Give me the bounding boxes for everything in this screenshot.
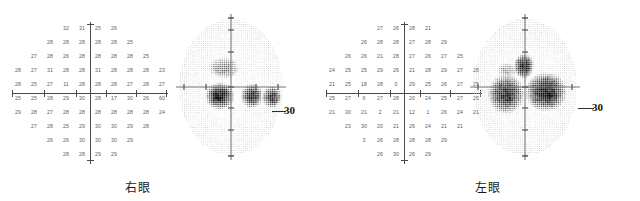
threshold-cell: 27 [26,120,42,132]
threshold-cell: 28 [74,106,90,118]
threshold-cell-empty [436,22,452,34]
threshold-cell-empty [10,36,26,48]
threshold-cell: 28 [58,36,74,48]
threshold-cell: 28 [10,78,26,90]
threshold-cell: 20 [404,92,420,104]
threshold-cell: 31 [74,22,90,34]
threshold-cell: 28 [122,106,138,118]
eye-caption-left: 左眼 [328,178,640,195]
threshold-cell: 29 [122,134,138,146]
threshold-numeric-grid-right: 3231252628282828282527282628282828252827… [10,18,170,168]
threshold-cell-empty [10,22,26,34]
threshold-row: 2728262828282825 [10,50,170,62]
threshold-cell: 27 [26,64,42,76]
threshold-cell-empty [154,50,170,62]
threshold-cell: 28 [138,64,154,76]
threshold-cell: 29 [58,92,74,104]
threshold-cell: 1 [420,106,436,118]
threshold-cell: 28 [58,148,74,160]
threshold-cell-empty [138,134,154,146]
threshold-cell: 28 [90,78,106,90]
grayscale-canvas [172,12,290,162]
threshold-row: 2728252930302928 [10,120,170,132]
threshold-cell: 24 [154,106,170,118]
threshold-row: 282828282825 [10,36,170,48]
threshold-cell: 30 [74,92,90,104]
threshold-cell: 25 [356,64,372,76]
threshold-cell: 30 [340,106,356,118]
threshold-cell: 29 [122,120,138,132]
threshold-cell: 29 [90,148,106,160]
threshold-cell-empty [324,36,340,48]
threshold-cell: 29 [436,64,452,76]
threshold-cell: 25 [420,78,436,90]
threshold-cell: 21 [356,106,372,118]
threshold-cell: 11 [58,78,74,90]
threshold-cell-empty [10,50,26,62]
threshold-cell: 27 [42,78,58,90]
degree-label-30: 30 [284,104,295,116]
threshold-cell: 27 [42,106,58,118]
threshold-cell: 27 [154,78,170,90]
threshold-cell: 27 [340,92,356,104]
threshold-cell: 26 [372,148,388,160]
threshold-row: 25252829302817302660 [10,92,170,104]
threshold-cell: 21 [324,78,340,90]
threshold-cell: 28 [122,64,138,76]
threshold-cell: 28 [90,36,106,48]
threshold-cell: 29 [106,148,122,160]
threshold-cell-empty [26,22,42,34]
threshold-cell-empty [154,36,170,48]
threshold-cell: 60 [154,92,170,104]
threshold-cell: 28 [388,92,404,104]
threshold-numeric-grid-left: 2726282126282827282926262128272627252425… [324,18,484,168]
threshold-row: 32312526 [10,22,170,34]
grayscale-plot-right: 30 [172,12,294,164]
threshold-cell: 26 [58,134,74,146]
threshold-row: 28252711282828272827 [10,78,170,90]
threshold-cell: 25 [340,64,356,76]
threshold-cell: 26 [58,50,74,62]
threshold-cell: 28 [90,106,106,118]
threshold-cell: 30 [106,120,122,132]
threshold-cell: 21 [420,22,436,34]
threshold-cell: 28 [42,50,58,62]
threshold-cell-empty [138,148,154,160]
axis-tick [87,160,94,161]
threshold-cell-empty [340,148,356,160]
threshold-cell: 25 [324,92,340,104]
threshold-cell: 26 [420,50,436,62]
threshold-cell: 28 [90,92,106,104]
grayscale-plot-left: 30 [466,12,588,164]
threshold-cell: 30 [122,92,138,104]
threshold-cell: 28 [372,36,388,48]
threshold-cell-empty [26,148,42,160]
threshold-cell: 26 [340,50,356,62]
threshold-cell: 28 [42,92,58,104]
threshold-cell: 28 [138,106,154,118]
threshold-cell-empty [154,148,170,160]
threshold-cell: 30 [90,120,106,132]
threshold-cell: 28 [388,134,404,146]
threshold-cell: 20 [372,120,388,132]
threshold-cell-empty [10,134,26,146]
threshold-cell: 28 [106,64,122,76]
threshold-cell: 21 [372,50,388,62]
threshold-row: 24252529262128292728 [324,64,484,76]
threshold-cell-empty [324,148,340,160]
threshold-cell-empty [26,36,42,48]
threshold-cell: 28 [388,36,404,48]
threshold-cell: 30 [74,134,90,146]
threshold-cell: 26 [372,134,388,146]
threshold-cell: 28 [106,78,122,90]
grayscale-canvas [466,12,584,162]
threshold-cell: 30 [90,134,106,146]
threshold-cell-empty [324,22,340,34]
threshold-cell-empty [122,22,138,34]
threshold-cell: 27 [372,22,388,34]
threshold-cell: 21 [404,64,420,76]
threshold-row: 29282728282828282824 [10,106,170,118]
threshold-row: 262630303029 [10,134,170,146]
grayscale-stipple-svg [466,12,584,162]
threshold-row: 2330202126242121 [324,120,484,132]
